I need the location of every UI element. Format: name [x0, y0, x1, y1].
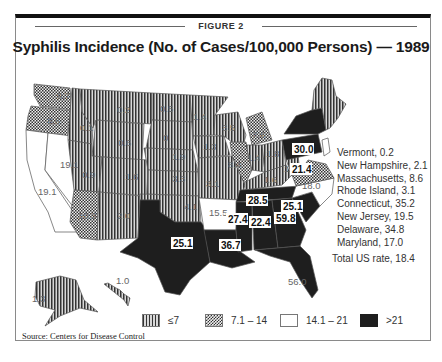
label-ks: 3.3 — [172, 173, 185, 184]
total-us-rate: Total US rate, 18.4 — [332, 253, 415, 264]
state-colorado — [99, 157, 148, 196]
small-state-notes: Vermont, 0.2 New Hampshire, 2.1 Massachu… — [337, 147, 428, 249]
note-item: Massachusetts, 8.6 — [337, 173, 428, 186]
label-ny: 30.0 — [294, 144, 314, 155]
label-ar: 15.5 — [209, 207, 228, 218]
label-ok: 4.1 — [184, 201, 197, 212]
state-south-dakota — [146, 120, 193, 150]
legend-item-black: >21 — [360, 313, 403, 327]
label-sd: 0 — [163, 132, 168, 143]
source-note: Source: Centers for Disease Control — [22, 331, 145, 341]
label-tn: 28.5 — [248, 195, 268, 206]
label-oh: 1.8 — [266, 148, 279, 159]
label-ut: 0.9 — [82, 169, 95, 180]
label-ms: 27.4 — [228, 214, 248, 225]
note-item: Rhode Island, 3.1 — [337, 185, 428, 198]
note-item: New Jersey, 19.5 — [337, 211, 428, 224]
note-item: Vermont, 0.2 — [337, 147, 428, 160]
checkered-swatch-icon — [205, 314, 223, 327]
label-tx: 25.1 — [173, 238, 193, 249]
legend-label: 7.1 – 14 — [231, 315, 267, 326]
label-in: 1.4 — [247, 152, 260, 163]
label-co: 1.6 — [125, 171, 138, 182]
label-ga: 59.8 — [276, 213, 296, 224]
label-id: 0.1 — [80, 122, 93, 133]
label-wi: 3.5 — [222, 122, 235, 133]
label-al: 22.4 — [251, 217, 271, 228]
label-wy: 0.6 — [118, 137, 131, 148]
label-nd: 0.5 — [160, 103, 173, 114]
black-swatch-icon — [360, 314, 378, 327]
state-florida — [255, 246, 318, 298]
label-fl: 56.0 — [288, 276, 307, 287]
legend-label: >21 — [386, 315, 403, 326]
label-la: 36.7 — [221, 240, 241, 251]
state-new-york — [284, 108, 326, 134]
legend-item-white: 14.1 – 21 — [280, 313, 348, 327]
label-az: 10.3 — [78, 210, 97, 221]
label-hi: 1.0 — [116, 275, 129, 286]
label-or: 8.6 — [47, 115, 60, 126]
label-nm: 2.0 — [117, 210, 130, 221]
stripes-swatch-icon — [142, 314, 160, 327]
label-sc: 25.1 — [283, 201, 303, 212]
note-item: New Hampshire, 2.1 — [337, 160, 428, 173]
label-nc: 18.0 — [302, 180, 321, 191]
legend-label: ≤7 — [168, 315, 179, 326]
label-mt: 0.2 — [117, 104, 130, 115]
label-wa: 9.7 — [57, 90, 70, 101]
label-ak: 1.3 — [32, 293, 45, 304]
label-ky: 1.6 — [264, 174, 277, 185]
state-new-jersey — [322, 138, 330, 156]
label-ca: 19.1 — [38, 186, 57, 197]
label-mi: 7.6 — [252, 129, 265, 140]
note-item: Maryland, 17.0 — [337, 237, 428, 250]
label-ia: 1.3 — [203, 141, 216, 152]
label-il: 8.4 — [228, 159, 241, 170]
note-item: Delaware, 34.8 — [337, 224, 428, 237]
label-mo: 3.1 — [206, 178, 219, 189]
legend-item-stripes: ≤7 — [142, 313, 179, 327]
state-nebraska — [144, 148, 198, 172]
legend-item-checks: 7.1 – 14 — [205, 313, 267, 327]
label-pa: 21.4 — [292, 164, 312, 175]
note-item: Connecticut, 35.2 — [337, 198, 428, 211]
label-ne: 1.9 — [172, 151, 185, 162]
label-mn: 1.4 — [193, 111, 206, 122]
legend-label: 14.1 – 21 — [306, 315, 348, 326]
label-nv: 19.1 — [60, 159, 79, 170]
white-swatch-icon — [280, 314, 298, 327]
state-hawaii — [104, 283, 130, 306]
